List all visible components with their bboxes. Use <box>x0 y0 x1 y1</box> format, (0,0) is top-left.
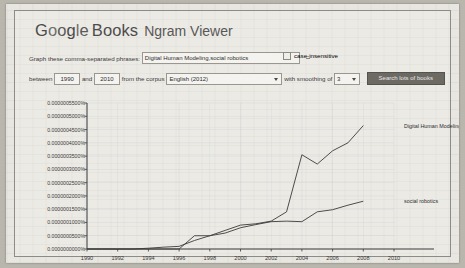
ngram-viewer-wordmark: Ngram Viewer <box>144 23 232 39</box>
smoothing-label: with smoothing of <box>284 75 332 82</box>
case-insensitive-control[interactable]: case-insensitive <box>283 52 338 60</box>
page-title: GoogleBooksNgram Viewer <box>35 21 233 40</box>
logo-letter-g2: g <box>67 21 76 39</box>
books-wordmark: Books <box>92 21 138 39</box>
series-label-1: social robotics <box>404 198 438 204</box>
chart-plot <box>29 97 454 263</box>
ngram-chart: 0.0000000000%0.0000000500%0.0000001000%0… <box>29 97 454 263</box>
scanned-page: GoogleBooksNgram Viewer Graph these comm… <box>6 4 459 263</box>
phrases-label: Graph these comma-separated phrases: <box>29 55 140 62</box>
case-insensitive-label: case-insensitive <box>294 52 338 59</box>
year-start-input[interactable]: 1990 <box>54 73 80 85</box>
phrases-row: Graph these comma-separated phrases: Dig… <box>29 52 314 64</box>
ngram-viewer-frame: GoogleBooksNgram Viewer Graph these comm… <box>14 10 451 257</box>
case-insensitive-checkbox[interactable] <box>283 52 291 60</box>
corpus-label: from the corpus <box>122 75 165 82</box>
year-end-input[interactable]: 2010 <box>94 73 120 85</box>
smoothing-select[interactable]: 3 <box>334 73 360 85</box>
phrases-input[interactable]: Digital Human Modeling,social robotics <box>142 52 300 64</box>
corpus-select[interactable]: English (2012) <box>166 73 282 85</box>
logo-letter-o2: o <box>57 21 66 39</box>
logo-letter-g: G <box>35 21 48 39</box>
search-button[interactable]: Search lots of books <box>367 72 445 85</box>
logo-letter-o1: o <box>48 21 57 39</box>
and-label: and <box>82 75 92 82</box>
logo-letter-e: e <box>80 21 89 39</box>
options-row: between 1990 and 2010 from the corpus En… <box>29 72 445 85</box>
between-label: between <box>29 75 52 82</box>
google-logo: Google <box>35 21 89 39</box>
series-label-0: Digital Human Modeling <box>404 123 459 129</box>
